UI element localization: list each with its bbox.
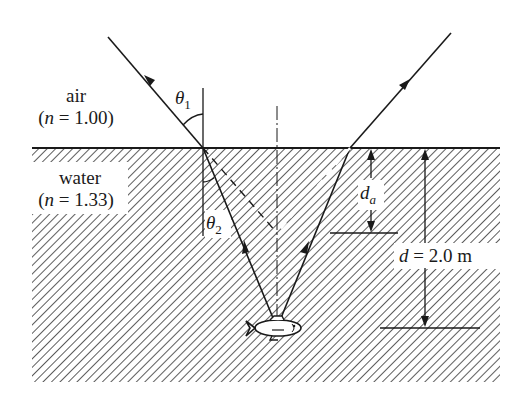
da-subscript: a xyxy=(370,192,377,207)
refraction-diagram: air (n = 1.00) water (n = 1.33) θ1 θ2 da… xyxy=(0,0,524,398)
air-index-label: (n = 1.00) xyxy=(18,108,134,127)
d-symbol: d xyxy=(399,245,409,266)
theta2-symbol: θ xyxy=(206,212,215,233)
water-name: water xyxy=(59,167,101,188)
water-label: water xyxy=(30,168,130,187)
theta2-subscript: 2 xyxy=(215,222,222,237)
water-n-symbol: n xyxy=(45,189,55,210)
apparent-depth-label: da xyxy=(360,183,376,202)
water-index-label: (n = 1.33) xyxy=(18,190,134,209)
d-value: 2.0 m xyxy=(429,245,472,266)
air-name: air xyxy=(66,85,86,106)
air-n-value: 1.00 xyxy=(74,107,107,128)
d-equals: = xyxy=(413,245,424,266)
air-label: air xyxy=(36,86,116,105)
theta2-label: θ2 xyxy=(206,213,222,232)
da-symbol: d xyxy=(360,182,370,203)
real-depth-label: d = 2.0 m xyxy=(399,246,472,265)
theta1-arc xyxy=(183,114,203,125)
theta1-label: θ1 xyxy=(175,88,191,107)
theta1-subscript: 1 xyxy=(184,97,191,112)
water-n-value: 1.33 xyxy=(74,189,107,210)
air-n-symbol: n xyxy=(45,107,55,128)
ray-right-air-arrow xyxy=(399,79,410,90)
theta1-symbol: θ xyxy=(175,87,184,108)
ray-right-air xyxy=(350,33,451,148)
